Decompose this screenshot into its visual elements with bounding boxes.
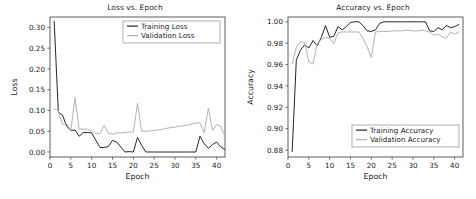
- y-tick-label: 0.98: [267, 39, 283, 48]
- accuracy-chart-panel: Accuracy vs. Epoch 05101520253035400.880…: [238, 0, 476, 199]
- y-tick-label: 0.20: [29, 65, 45, 74]
- x-tick-label: 35: [191, 161, 200, 170]
- legend-label: Training Loss: [140, 22, 188, 31]
- x-tick-label: 10: [87, 161, 97, 170]
- x-tick-label: 10: [325, 161, 335, 170]
- x-tick-label: 30: [408, 161, 418, 170]
- x-tick-label: 40: [212, 161, 222, 170]
- y-tick-label: 0.05: [29, 127, 45, 136]
- x-tick-label: 30: [170, 161, 180, 170]
- figure-canvas: Loss vs. Epoch 05101520253035400.000.050…: [0, 0, 476, 199]
- y-axis-title: Loss: [10, 78, 19, 95]
- x-tick-label: 40: [450, 161, 460, 170]
- legend-label: Training Accuracy: [369, 126, 434, 135]
- series-line: [54, 98, 225, 137]
- x-tick-label: 35: [429, 161, 438, 170]
- y-axis-title: Accuracy: [246, 69, 255, 105]
- legend-label: Validation Loss: [141, 31, 195, 40]
- y-tick-label: 0.90: [267, 124, 283, 133]
- legend-label: Validation Accuracy: [370, 135, 441, 144]
- y-tick-label: 0.10: [29, 106, 45, 115]
- y-tick-label: 0.30: [29, 23, 45, 32]
- y-tick-label: 1.00: [267, 17, 283, 26]
- y-tick-label: 0.92: [267, 103, 283, 112]
- x-tick-label: 5: [69, 161, 74, 170]
- y-tick-label: 0.25: [29, 44, 45, 53]
- y-tick-label: 0.88: [267, 146, 283, 155]
- accuracy-plot-svg: 05101520253035400.880.900.920.940.960.98…: [238, 0, 476, 199]
- loss-chart-panel: Loss vs. Epoch 05101520253035400.000.050…: [0, 0, 238, 199]
- y-tick-label: 0.00: [29, 148, 45, 157]
- y-tick-label: 0.96: [267, 60, 283, 69]
- x-axis-title: Epoch: [126, 172, 150, 181]
- x-tick-label: 5: [307, 161, 312, 170]
- x-tick-label: 0: [48, 161, 53, 170]
- series-line: [292, 30, 459, 64]
- x-tick-label: 15: [108, 161, 117, 170]
- x-tick-label: 25: [150, 161, 159, 170]
- x-tick-label: 20: [129, 161, 139, 170]
- x-tick-label: 20: [367, 161, 377, 170]
- x-tick-label: 0: [286, 161, 291, 170]
- x-axis-title: Epoch: [364, 172, 388, 181]
- x-tick-label: 25: [388, 161, 397, 170]
- y-tick-label: 0.15: [29, 85, 45, 94]
- y-tick-label: 0.94: [267, 82, 283, 91]
- loss-plot-svg: 05101520253035400.000.050.100.150.200.25…: [0, 0, 238, 199]
- x-tick-label: 15: [346, 161, 355, 170]
